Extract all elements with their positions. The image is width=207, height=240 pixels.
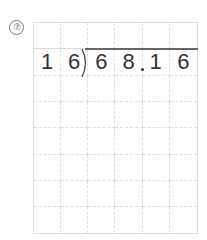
grid-cell[interactable] xyxy=(61,181,88,207)
grid-cell[interactable]: 6 xyxy=(170,49,197,76)
grid-cell[interactable]: 1 xyxy=(143,49,170,76)
grid-cell[interactable] xyxy=(115,128,142,154)
grid-cell[interactable] xyxy=(34,181,61,207)
grid-cell[interactable] xyxy=(143,102,170,128)
grid-cell[interactable] xyxy=(143,155,170,181)
grid-cell[interactable] xyxy=(34,102,61,128)
grid-cell[interactable] xyxy=(143,207,170,233)
grid-cell[interactable] xyxy=(143,128,170,154)
grid-cell[interactable] xyxy=(88,23,115,49)
grid-cell[interactable] xyxy=(115,23,142,49)
problem-number-badge: ⑦ xyxy=(9,20,24,35)
long-division-grid: 166816 xyxy=(33,22,198,234)
grid-cell[interactable] xyxy=(61,102,88,128)
grid-cell[interactable] xyxy=(61,207,88,233)
grid-cell[interactable]: 6 xyxy=(88,49,115,76)
grid-cell[interactable] xyxy=(61,76,88,102)
grid-cell[interactable] xyxy=(170,128,197,154)
grid-cell[interactable] xyxy=(34,23,61,49)
grid-cell[interactable] xyxy=(34,155,61,181)
grid-cell[interactable] xyxy=(34,128,61,154)
grid-cell[interactable] xyxy=(88,155,115,181)
grid-cell[interactable] xyxy=(170,155,197,181)
grid-cell[interactable]: 1 xyxy=(34,49,61,76)
division-bracket-icon xyxy=(78,48,88,78)
grid-cell[interactable] xyxy=(88,102,115,128)
grid-cell[interactable] xyxy=(143,76,170,102)
grid-cell[interactable] xyxy=(34,207,61,233)
grid-cell[interactable] xyxy=(88,76,115,102)
grid-cell[interactable] xyxy=(170,207,197,233)
grid-cell[interactable] xyxy=(115,207,142,233)
grid-cell[interactable] xyxy=(143,23,170,49)
grid-cell[interactable] xyxy=(88,207,115,233)
grid-cell[interactable] xyxy=(61,155,88,181)
grid-cell[interactable] xyxy=(115,181,142,207)
grid-cell[interactable] xyxy=(88,128,115,154)
grid-cell[interactable] xyxy=(170,102,197,128)
decimal-point xyxy=(141,68,144,71)
grid-cell[interactable] xyxy=(61,23,88,49)
grid-cell[interactable] xyxy=(170,23,197,49)
grid-cell[interactable]: 8 xyxy=(115,49,142,76)
grid-cell[interactable] xyxy=(170,181,197,207)
grid-cell[interactable] xyxy=(115,76,142,102)
grid-cell[interactable] xyxy=(88,181,115,207)
grid-cell[interactable] xyxy=(115,102,142,128)
grid-cell[interactable] xyxy=(34,76,61,102)
grid-cell[interactable] xyxy=(170,76,197,102)
grid-cell[interactable] xyxy=(115,155,142,181)
grid-cell[interactable] xyxy=(61,128,88,154)
grid-cell[interactable] xyxy=(143,181,170,207)
division-bar xyxy=(85,48,198,50)
